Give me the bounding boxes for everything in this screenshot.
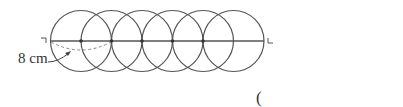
answer-bracket: ( — [256, 88, 262, 107]
dimension-label: 8 cm — [18, 50, 48, 67]
leader-line — [48, 53, 69, 62]
left-end-marker — [41, 38, 46, 43]
overlapping-circles-diagram — [0, 0, 403, 107]
right-end-marker — [268, 38, 273, 43]
